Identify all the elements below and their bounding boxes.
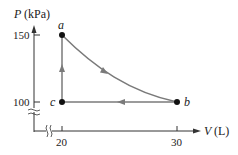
y-axis: [28, 25, 40, 132]
arrow-b-to-c-icon: [117, 99, 125, 105]
y-axis-unit-label: (kPa): [24, 7, 50, 21]
point-a-label: a: [58, 18, 64, 32]
x-axis-var-label: V: [204, 124, 213, 138]
path-a-to-b: [62, 35, 177, 102]
arrow-c-to-a-icon: [59, 64, 65, 72]
x-tick-label-20: 20: [56, 136, 68, 148]
point-c-label: c: [50, 95, 56, 109]
x-tick-label-30: 30: [171, 136, 183, 148]
y-axis-break-icon: [28, 109, 40, 111]
point-b-label: b: [184, 95, 190, 109]
y-tick-label-150: 150: [13, 29, 30, 41]
point-a: [59, 32, 65, 38]
y-axis-var-label: P: [13, 7, 22, 21]
x-axis-break-icon: [46, 125, 48, 137]
pv-diagram: a b c P (kPa) 150 100 20 30 V (L): [0, 0, 238, 155]
point-b: [174, 99, 180, 105]
state-points: [59, 32, 180, 105]
y-tick-label-100: 100: [13, 96, 30, 108]
x-axis-arrow-icon: [193, 129, 201, 134]
x-axis-unit-label: (L): [214, 124, 229, 138]
process-paths: [59, 35, 177, 105]
point-c: [59, 99, 65, 105]
y-axis-arrow-icon: [32, 25, 37, 33]
pv-diagram-svg: a b c P (kPa) 150 100 20 30 V (L): [0, 0, 238, 155]
